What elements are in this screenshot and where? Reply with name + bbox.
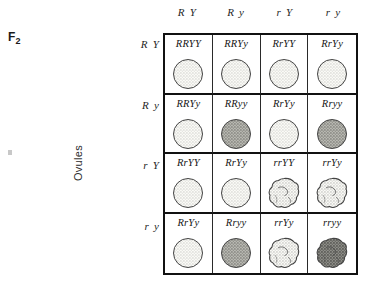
cell-genotype-label: rrYY [261, 157, 308, 168]
column-header-1: R y [212, 6, 261, 18]
punnett-cell: RrYY [165, 154, 213, 214]
cell-genotype-label: RrYy [213, 157, 260, 168]
cell-genotype-label: RRyy [213, 98, 260, 109]
ovules-axis-label: Ovules [72, 118, 84, 208]
punnett-square-grid: RRYYRRYyRrYYRrYyRRYyRRyyRrYyRryyRrYYRrYy… [163, 33, 358, 275]
punnett-cell: RRYY [165, 35, 213, 95]
generation-subscript: 2 [16, 36, 21, 46]
round-seed-icon [165, 234, 212, 272]
round-seed-icon [213, 115, 260, 153]
cell-genotype-label: RrYY [165, 157, 212, 168]
round-seed-icon [261, 115, 308, 153]
cell-genotype-label: RRYy [213, 38, 260, 49]
round-seed-icon [213, 55, 260, 93]
punnett-cell: RrYY [261, 35, 309, 95]
round-seed-icon [165, 55, 212, 93]
row-header-0: R Y [120, 33, 160, 94]
round-seed-icon [308, 55, 356, 93]
generation-letter: F [8, 30, 16, 44]
wrinkled-seed-icon [261, 174, 308, 212]
cell-genotype-label: rrYy [261, 217, 308, 228]
round-seed-icon [308, 115, 356, 153]
punnett-cell: rrYy [261, 214, 309, 274]
round-seed-icon [165, 174, 212, 212]
cell-genotype-label: RrYy [261, 98, 308, 109]
punnett-cell: RrYy [213, 154, 261, 214]
punnett-cell: Rryy [213, 214, 261, 274]
round-seed-icon [165, 115, 212, 153]
cell-genotype-label: RrYy [308, 38, 356, 49]
cell-genotype-label: RRYy [165, 98, 212, 109]
row-header-column: R Y R y r Y r y [120, 33, 160, 275]
cell-genotype-label: Rryy [213, 217, 260, 228]
cell-genotype-label: RrYy [165, 217, 212, 228]
punnett-cell: RRYy [213, 35, 261, 95]
round-seed-icon [213, 234, 260, 272]
cell-genotype-label: Rryy [308, 98, 356, 109]
row-header-3: r y [120, 215, 160, 276]
cell-genotype-label: rryy [308, 217, 356, 228]
wrinkled-seed-icon [308, 234, 356, 272]
wrinkled-seed-icon [261, 234, 308, 272]
punnett-cell: RrYy [165, 214, 213, 274]
column-header-3: r y [309, 6, 358, 18]
punnett-cell: RrYy [308, 35, 356, 95]
punnett-cell: rrYy [308, 154, 356, 214]
wrinkled-seed-icon [308, 174, 356, 212]
row-header-1: R y [120, 94, 160, 155]
column-header-row: R Y R y r Y r y [163, 6, 358, 18]
round-seed-icon [261, 55, 308, 93]
cell-genotype-label: RRYY [165, 38, 212, 49]
punnett-cell: RrYy [261, 95, 309, 155]
generation-label: F2 [8, 30, 21, 46]
punnett-cell: rryy [308, 214, 356, 274]
punnett-cell: Rryy [308, 95, 356, 155]
column-header-0: R Y [163, 6, 212, 18]
round-seed-icon [213, 174, 260, 212]
cell-genotype-label: rrYy [308, 157, 356, 168]
column-header-2: r Y [261, 6, 310, 18]
punnett-cell: RRYy [165, 95, 213, 155]
cell-genotype-label: RrYY [261, 38, 308, 49]
punnett-cell: RRyy [213, 95, 261, 155]
row-header-2: r Y [120, 154, 160, 215]
margin-speck [8, 150, 12, 155]
punnett-cell: rrYY [261, 154, 309, 214]
